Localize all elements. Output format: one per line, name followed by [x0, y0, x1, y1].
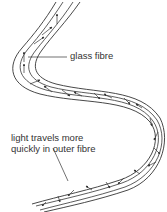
light-speed-label-line2: quickly in outer fibre [11, 143, 95, 154]
optical-fibre-diagram [0, 0, 167, 212]
light-ray-zigzag [24, 14, 160, 206]
fibre-outer-walls [13, 2, 165, 212]
glass-fibre-label: glass fibre [70, 50, 113, 61]
light-speed-label-line1: light travels more [11, 132, 95, 143]
fibre-core-boundaries [20, 2, 162, 210]
label-leader-lines [28, 57, 68, 181]
light-speed-label: light travels more quickly in outer fibr… [11, 132, 95, 154]
